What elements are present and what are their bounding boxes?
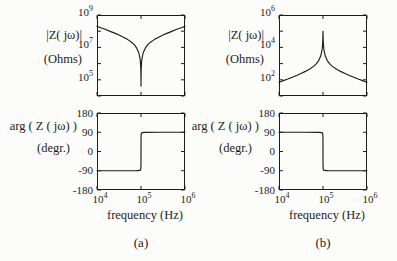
y-tick-label: 90 xyxy=(264,126,275,139)
y-axis-units-magnitude-b: (Ohms) xyxy=(226,52,264,67)
y-tick-label: -90 xyxy=(260,164,275,177)
y-tick-label: 102 xyxy=(260,71,275,84)
y-axis-units-phase-b: (degr.) xyxy=(219,141,252,156)
y-axis-label-phase-b: arg ( Z ( jω) ) xyxy=(192,119,259,134)
x-tick-label: 104 xyxy=(275,193,290,206)
y-axis-label-magnitude-b: |Z( jω)| xyxy=(228,28,264,43)
y-tick-label: 107 xyxy=(78,38,93,51)
exponent: 7 xyxy=(89,37,93,46)
impedance-phase-a-canvas xyxy=(97,113,185,190)
axes-box xyxy=(280,16,367,96)
y-tick-label: 109 xyxy=(78,6,93,19)
y-axis-label-phase-a: arg ( Z ( jω) ) xyxy=(10,119,77,134)
exponent: 6 xyxy=(271,4,275,13)
y-tick-label: 180 xyxy=(77,107,94,120)
impedance-figure: |Z( jω)| (Ohms) 109107105 |Z( jω)| (Ohms… xyxy=(0,0,397,261)
exponent: 6 xyxy=(374,191,378,200)
impedance-phase-b-canvas xyxy=(279,113,367,190)
exponent: 6 xyxy=(192,191,196,200)
y-tick-label: 0 xyxy=(88,145,94,158)
impedance-magnitude-b-canvas xyxy=(279,15,367,96)
y-tick-label: -180 xyxy=(255,184,275,197)
y-tick-label: 0 xyxy=(270,145,276,158)
impedance-magnitude-a-canvas xyxy=(97,15,185,96)
impedance-magnitude-a-curve xyxy=(97,26,185,86)
exponent: 5 xyxy=(148,191,152,200)
y-tick-label: -90 xyxy=(78,164,93,177)
exponent: 4 xyxy=(286,191,290,200)
exponent: 4 xyxy=(104,191,108,200)
plot-impedance-magnitude-a: |Z( jω)| (Ohms) 109107105 xyxy=(97,15,185,96)
y-axis-units-phase-a: (degr.) xyxy=(37,141,70,156)
x-axis-label-b: frequency (Hz) xyxy=(289,208,365,223)
plot-impedance-phase-a: arg ( Z ( jω) ) (degr.) frequency (Hz) (… xyxy=(97,113,185,190)
y-tick-label: 180 xyxy=(259,107,276,120)
plot-impedance-magnitude-b: |Z( jω)| (Ohms) 106104102 xyxy=(279,15,367,96)
subfigure-caption-b: (b) xyxy=(315,235,330,251)
y-axis-units-magnitude-a: (Ohms) xyxy=(44,52,82,67)
x-tick-label: 105 xyxy=(319,193,334,206)
x-tick-label: 105 xyxy=(137,193,152,206)
y-axis-label-magnitude-a: |Z( jω)| xyxy=(46,28,82,43)
x-axis-label-a: frequency (Hz) xyxy=(107,208,183,223)
impedance-phase-b-curve xyxy=(279,132,367,171)
subfigure-caption-a: (a) xyxy=(134,235,148,251)
y-tick-label: 105 xyxy=(78,71,93,84)
x-tick-label: 106 xyxy=(181,193,196,206)
y-tick-label: 106 xyxy=(260,6,275,19)
y-tick-label: 90 xyxy=(82,126,93,139)
exponent: 4 xyxy=(271,37,275,46)
x-tick-label: 104 xyxy=(93,193,108,206)
exponent: 5 xyxy=(330,191,334,200)
exponent: 9 xyxy=(89,4,93,13)
impedance-phase-a-curve xyxy=(97,132,185,171)
exponent: 5 xyxy=(89,69,93,78)
plot-impedance-phase-b: arg ( Z ( jω) ) (degr.) frequency (Hz) (… xyxy=(279,113,367,190)
impedance-magnitude-b-curve xyxy=(279,31,367,82)
y-tick-label: -180 xyxy=(73,184,93,197)
y-tick-label: 104 xyxy=(260,38,275,51)
exponent: 2 xyxy=(271,69,275,78)
x-tick-label: 106 xyxy=(363,193,378,206)
